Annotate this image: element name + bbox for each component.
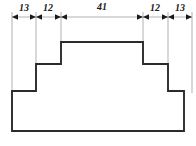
arrowhead-left-at-61 <box>55 14 61 19</box>
dimension-label-41: 41 <box>97 2 107 12</box>
stepped-profile-outline <box>12 42 184 131</box>
arrowhead-right-at-168 <box>168 14 174 19</box>
arrowhead-left-at-36 <box>30 14 36 19</box>
arrowhead-right-at-12 <box>12 14 18 19</box>
arrowhead-right-at-143 <box>143 14 149 19</box>
dimension-label-12-right: 12 <box>150 3 160 13</box>
arrowhead-right-at-36 <box>36 14 42 19</box>
arrowhead-left-at-192 <box>186 14 192 19</box>
arrowhead-left-at-143 <box>137 14 143 19</box>
dimension-label-13-left: 13 <box>19 3 29 13</box>
extension-lines-group <box>12 12 192 93</box>
arrowhead-left-at-168 <box>162 14 168 19</box>
dimension-label-12-left: 12 <box>43 3 53 13</box>
drawing-svg <box>0 0 196 146</box>
dimension-label-13-right: 13 <box>175 3 185 13</box>
technical-drawing-canvas: 13 12 41 12 13 <box>0 0 196 146</box>
arrowhead-right-at-61 <box>61 14 67 19</box>
